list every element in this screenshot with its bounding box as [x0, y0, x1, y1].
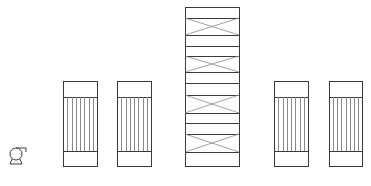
packed-column	[185, 8, 240, 167]
heat-exchanger-2	[117, 82, 152, 167]
process-diagram	[0, 0, 371, 186]
heat-exchanger-1	[63, 82, 98, 167]
heat-exchanger-4	[329, 82, 363, 167]
pump-icon	[10, 148, 26, 164]
heat-exchanger-3	[274, 82, 309, 167]
